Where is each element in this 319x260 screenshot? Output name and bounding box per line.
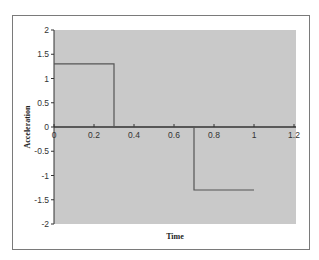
y-tick-label: 0.5 [37,98,49,108]
y-tick-label: 2 [44,25,49,35]
chart-svg: 21.510.50-0.5-1-1.5-2 00.20.40.60.811.2 … [0,0,319,260]
x-tick-label: 0.8 [208,130,220,140]
y-axis-title: Acceleration [23,105,32,149]
y-tick-label: 1.5 [37,49,49,59]
x-tick-label: 1.2 [288,130,300,140]
y-tick-label: -0.5 [34,146,49,156]
x-tick-label: 1 [252,130,257,140]
y-axis: 21.510.50-0.5-1-1.5-2 [34,25,54,229]
x-tick-label: 0.2 [88,130,100,140]
x-axis-title: Time [166,232,184,241]
x-tick-label: 0.4 [128,130,140,140]
x-tick-label: 0 [52,130,57,140]
x-tick-label: 0.6 [168,130,180,140]
y-tick-label: -1.5 [34,195,49,205]
y-tick-label: -2 [41,219,49,229]
y-tick-label: 1 [44,74,49,84]
y-tick-label: -1 [41,171,49,181]
y-tick-label: 0 [44,122,49,132]
